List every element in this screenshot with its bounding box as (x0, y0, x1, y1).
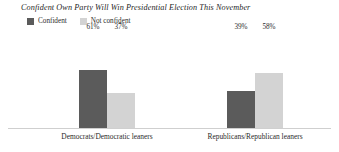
bar-chart: Confident Own Party Will Win Presidentia… (0, 0, 339, 152)
bar-group-republicans: 39% 58% (190, 33, 320, 128)
bar-value-rep-not-confident: 58% (262, 24, 275, 31)
bar-value-dem-confident: 61% (86, 24, 99, 31)
bar-dem-confident (79, 70, 107, 128)
bar-dem-not-confident (107, 93, 135, 128)
legend-label-confident: Confident (38, 18, 67, 25)
bar-group-democrats: 61% 37% (42, 33, 172, 128)
bar-value-rep-confident: 39% (234, 24, 247, 31)
bar-rep-confident (227, 91, 255, 128)
axis-baseline (8, 128, 331, 129)
category-axis: Democrats/Democratic leaners Republicans… (0, 133, 339, 147)
category-label-republicans: Republicans/Republican leaners (190, 133, 320, 140)
bar-wrap-rep-confident: 39% (227, 33, 255, 128)
chart-title: Confident Own Party Will Win Presidentia… (21, 3, 250, 12)
plot-area: 61% 37% 39% 58% (0, 33, 339, 129)
legend-swatch-confident (27, 18, 34, 25)
legend-item-confident: Confident (27, 18, 67, 25)
bar-wrap-dem-confident: 61% (79, 33, 107, 128)
category-label-democrats: Democrats/Democratic leaners (42, 133, 172, 140)
bar-wrap-rep-not-confident: 58% (255, 33, 283, 128)
bar-rep-not-confident (255, 73, 283, 128)
bar-wrap-dem-not-confident: 37% (107, 33, 135, 128)
bar-value-dem-not-confident: 37% (114, 24, 127, 31)
